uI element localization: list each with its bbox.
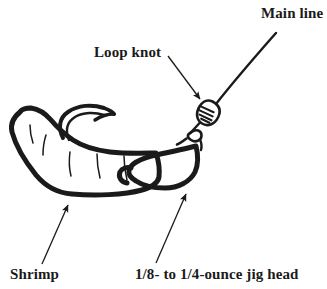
label-main-line: Main line xyxy=(261,6,323,21)
jig-head-leader xyxy=(156,194,186,263)
loop-knot-leader xyxy=(168,56,200,99)
main-line xyxy=(216,33,276,104)
hook-point xyxy=(60,106,114,140)
label-jig-head: 1/8- to 1/4-ounce jig head xyxy=(135,267,298,282)
shrimp-leader xyxy=(42,205,68,264)
leader-arrows xyxy=(42,56,200,264)
label-shrimp: Shrimp xyxy=(10,267,59,282)
label-loop-knot: Loop knot xyxy=(94,45,161,60)
diagram-canvas xyxy=(0,0,327,289)
loop-knot xyxy=(177,101,220,150)
fishing-rig-diagram: Main line Loop knot Shrimp 1/8- to 1/4-o… xyxy=(0,0,327,289)
